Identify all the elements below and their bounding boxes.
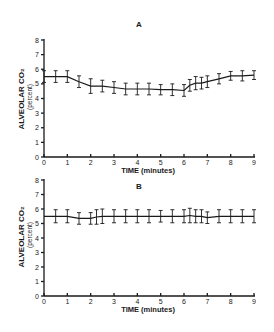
- y-tick-label: 8: [35, 177, 39, 184]
- panel-b-ylabel: ALVEOLAR CO₂ (percent): [17, 206, 34, 268]
- x-tick-label: 1: [65, 159, 69, 166]
- y-axis-title: ALVEOLAR CO₂: [17, 68, 26, 130]
- x-tick-label: 0: [42, 298, 46, 305]
- panel-b: B ALVEOLAR CO₂ (percent) TIME (minutes) …: [17, 177, 256, 315]
- x-tick-label: 8: [229, 298, 233, 305]
- x-tick-label: 7: [205, 298, 209, 305]
- y-tick-label: 3: [35, 249, 39, 256]
- x-tick-label: 4: [135, 298, 139, 305]
- y-tick-label: 1: [35, 139, 39, 146]
- panel-b-title: B: [136, 182, 142, 191]
- y-tick-label: 7: [35, 51, 39, 58]
- y-tick-label: 3: [35, 110, 39, 117]
- x-axis-title: TIME (minutes): [121, 305, 175, 314]
- y-tick-label: 4: [35, 235, 39, 242]
- y-tick-label: 7: [35, 191, 39, 198]
- x-axis-title: TIME (minutes): [121, 166, 175, 175]
- x-tick-label: 6: [182, 159, 186, 166]
- x-tick-label: 0: [42, 159, 46, 166]
- y-tick-label: 6: [35, 66, 39, 73]
- y-tick-label: 5: [35, 220, 39, 227]
- y-tick-label: 0: [35, 154, 39, 161]
- y-tick-label: 2: [35, 264, 39, 271]
- y-axis-subtitle: (percent): [26, 84, 34, 110]
- panel-a-ylabel: ALVEOLAR CO₂ (percent): [17, 68, 34, 130]
- x-tick-label: 3: [112, 159, 116, 166]
- y-tick-label: 2: [35, 124, 39, 131]
- x-tick-label: 5: [159, 159, 163, 166]
- figure: A ALVEOLAR CO₂ (percent) TIME (minutes) …: [0, 0, 274, 332]
- x-tick-label: 8: [229, 159, 233, 166]
- panel-a-title: A: [136, 20, 142, 29]
- y-tick-label: 1: [35, 278, 39, 285]
- x-tick-label: 9: [252, 298, 256, 305]
- plot-area-b: 0123456780123456789: [35, 177, 256, 306]
- x-tick-label: 6: [182, 298, 186, 305]
- panel-a: A ALVEOLAR CO₂ (percent) TIME (minutes) …: [17, 20, 256, 175]
- x-tick-label: 5: [159, 298, 163, 305]
- y-tick-label: 6: [35, 206, 39, 213]
- x-tick-label: 2: [89, 298, 93, 305]
- plot-area-a: 0123456780123456789: [35, 37, 256, 167]
- y-tick-label: 4: [35, 95, 39, 102]
- x-tick-label: 2: [89, 159, 93, 166]
- x-tick-label: 4: [135, 159, 139, 166]
- y-axis-title: ALVEOLAR CO₂: [17, 206, 26, 268]
- x-tick-label: 1: [65, 298, 69, 305]
- y-tick-label: 8: [35, 37, 39, 44]
- y-axis-subtitle: (percent): [26, 222, 34, 248]
- y-tick-label: 0: [35, 293, 39, 300]
- x-tick-label: 7: [205, 159, 209, 166]
- x-tick-label: 9: [252, 159, 256, 166]
- x-tick-label: 3: [112, 298, 116, 305]
- y-tick-label: 5: [35, 80, 39, 87]
